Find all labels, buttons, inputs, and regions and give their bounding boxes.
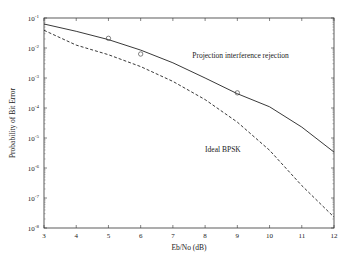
x-tick-label: 6 [139,232,143,240]
y-tick-label: 10-7 [28,194,40,203]
x-tick-label: 4 [74,232,78,240]
annotation-label: Projection interference rejection [192,51,289,60]
x-tick-label: 7 [171,232,175,240]
plot-annotations: Projection interference rejectionIdeal B… [192,51,289,153]
annotation-label: Ideal BPSK [205,145,241,154]
x-tick-label: 12 [331,232,339,240]
y-tick-label: 10-2 [28,44,40,53]
x-tick-label: 3 [42,232,46,240]
y-tick-label: 10-6 [28,164,40,173]
series-projection-rejection [44,24,334,152]
ber-chart: 345678910111210-110-210-310-410-510-610-… [0,0,356,256]
y-tick-label: 10-3 [28,74,40,83]
x-tick-label: 10 [266,232,274,240]
y-tick-label: 10-1 [28,14,40,23]
x-tick-label: 9 [236,232,240,240]
series-ideal-bpsk [44,30,334,217]
x-tick-label: 11 [298,232,305,240]
x-axis-label: Eb/No (dB) [171,243,207,252]
plot-frame [44,18,334,228]
y-tick-label: 10-5 [28,134,40,143]
x-tick-label: 5 [107,232,111,240]
y-tick-label: 10-4 [28,104,40,113]
plot-series [44,24,334,217]
x-tick-label: 8 [203,232,207,240]
plot-axes: 345678910111210-110-210-310-410-510-610-… [28,14,338,241]
y-tick-label: 10-8 [28,224,40,233]
circle-marker [138,52,142,56]
y-axis-label: Probability of Bit Error [8,87,17,158]
